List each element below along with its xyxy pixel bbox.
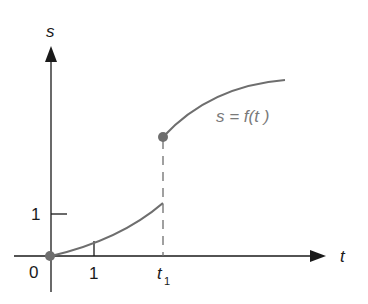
t1-upper-dot [158,132,168,142]
x-tick-label-t: t [157,264,163,283]
origin-label: 0 [29,263,38,282]
origin-dot [45,251,55,261]
y-axis-label: s [46,22,55,41]
x-tick-label-t-subscript: 1 [164,275,170,287]
x-tick-label-1: 1 [89,264,98,283]
curve-lower-branch [51,203,163,256]
x-axis-label: t [340,247,346,266]
y-axis-arrow-icon [45,46,57,62]
function-label: s = f(t ) [216,107,269,126]
graph-canvas: s t 0 1 1 t 1 s = f(t ) [0,0,368,304]
y-tick-label-1: 1 [31,205,40,224]
x-axis-arrow-icon [310,250,326,262]
